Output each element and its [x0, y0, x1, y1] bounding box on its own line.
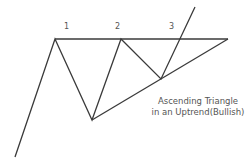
touch-label-2: 2: [115, 22, 120, 31]
ascending-triangle-diagram: 1 2 3 Ascending Triangle in an Uptrend(B…: [0, 0, 248, 168]
pattern-caption: Ascending Triangle in an Uptrend(Bullish…: [150, 96, 246, 118]
touch-label-3: 3: [169, 22, 174, 31]
price-path: [15, 7, 195, 157]
caption-line-1: Ascending Triangle: [150, 96, 246, 107]
caption-line-2: in an Uptrend(Bullish): [150, 107, 246, 118]
price-pattern-graphic: [0, 0, 248, 168]
touch-label-1: 1: [64, 22, 69, 31]
